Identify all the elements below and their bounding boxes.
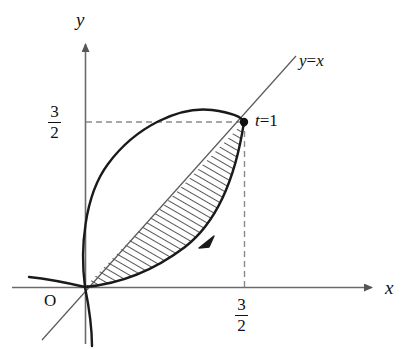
parametric-curve-figure: y x O y=x t=1 3 2 3 2 bbox=[0, 0, 409, 349]
x-axis-label: x bbox=[385, 278, 393, 297]
point-label-rhs: 1 bbox=[269, 111, 278, 130]
x-tick-numerator: 3 bbox=[235, 296, 248, 314]
line-label-rhs: x bbox=[316, 51, 324, 70]
line-label-equals: = bbox=[307, 51, 317, 70]
shaded-region bbox=[60, 100, 280, 310]
y-axis-tick-label: 3 2 bbox=[48, 103, 61, 142]
direction-arrow-icon bbox=[199, 236, 214, 248]
origin-label: O bbox=[44, 292, 56, 309]
point-label-equals: = bbox=[260, 111, 270, 130]
curve-tail-left bbox=[29, 277, 85, 287]
y-tick-denominator: 2 bbox=[48, 124, 61, 142]
y-axis-label: y bbox=[76, 10, 84, 29]
y-tick-numerator: 3 bbox=[48, 103, 61, 121]
figure-canvas bbox=[0, 0, 409, 349]
point-marker-t1 bbox=[240, 118, 248, 126]
line-label-y-equals-x: y=x bbox=[299, 52, 324, 69]
line-label-lhs: y bbox=[299, 51, 307, 70]
x-tick-denominator: 2 bbox=[235, 317, 248, 335]
parametric-curve bbox=[29, 109, 244, 346]
point-label-t-equals-1: t=1 bbox=[255, 112, 278, 129]
line-y-equals-x bbox=[42, 56, 296, 340]
x-axis-tick-label: 3 2 bbox=[235, 296, 248, 335]
